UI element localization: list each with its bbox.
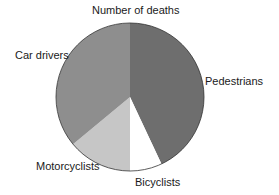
- pie-slices: [56, 23, 204, 171]
- label-bicyclists: Bicyclists: [135, 176, 180, 189]
- label-motorcyclists: Motorcyclists: [36, 160, 100, 173]
- label-pedestrians: Pedestrians: [205, 75, 263, 88]
- label-car-drivers: Car drivers: [15, 49, 69, 62]
- chart-title: Number of deaths: [92, 4, 179, 17]
